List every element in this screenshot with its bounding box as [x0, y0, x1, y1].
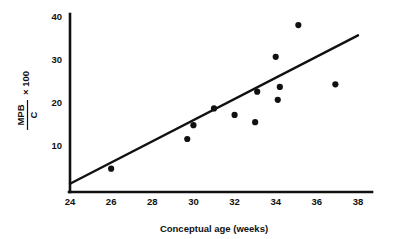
plot-canvas: 2426283032343638 10203040 Conceptual age… [0, 0, 396, 239]
y-axis-denominator: C [28, 111, 39, 118]
data-point [275, 97, 281, 103]
x-tick-label: 26 [106, 196, 117, 207]
x-axis-title: Conceptual age (weeks) [160, 223, 268, 234]
data-point [254, 89, 260, 95]
x-tick-label: 30 [188, 196, 199, 207]
y-axis-tick-labels: 10203040 [51, 11, 62, 151]
x-tick-label: 32 [229, 196, 240, 207]
data-point [184, 136, 190, 142]
data-point [190, 122, 196, 128]
data-point [231, 112, 237, 118]
y-tick-label: 30 [51, 54, 62, 65]
y-tick-label: 10 [51, 140, 62, 151]
data-points-group [108, 22, 338, 172]
y-tick-label: 20 [51, 97, 62, 108]
x-tick-label: 36 [312, 196, 323, 207]
x-tick-label: 38 [353, 196, 364, 207]
data-point [332, 81, 338, 87]
data-point [295, 22, 301, 28]
scatter-plot-figure: 2426283032343638 10203040 Conceptual age… [0, 0, 396, 239]
axes-group [69, 14, 372, 192]
y-axis-numerator: MPB [15, 104, 26, 125]
data-point [277, 84, 283, 90]
x-tick-label: 24 [65, 196, 76, 207]
data-point [273, 54, 279, 60]
y-tick-label: 40 [51, 11, 62, 22]
data-point [211, 105, 217, 111]
y-axis-multiplier: × 100 [20, 71, 31, 95]
x-axis-tick-labels: 2426283032343638 [65, 196, 364, 207]
x-tick-label: 34 [270, 196, 281, 207]
data-point [108, 166, 114, 172]
y-axis-title: MPB C × 100 [15, 71, 39, 130]
x-tick-label: 28 [147, 196, 158, 207]
data-point [252, 119, 258, 125]
